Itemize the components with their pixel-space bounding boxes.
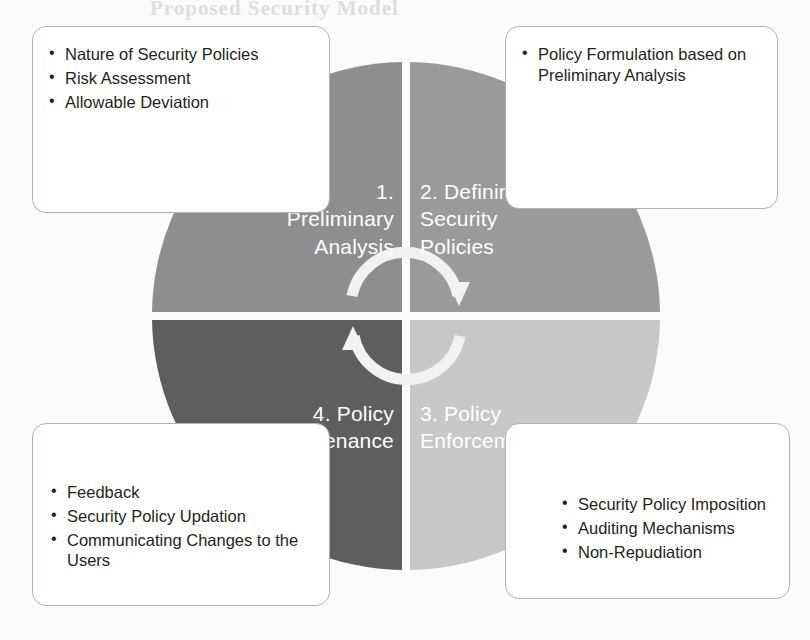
callout-list: Nature of Security PoliciesRisk Assessme…: [49, 44, 315, 112]
callout-list-item: Policy Formulation based on Preliminary …: [522, 44, 765, 86]
diagram-page: Proposed Security Model roposed Security…: [0, 0, 810, 640]
callout-list-item: Auditing Mechanisms: [562, 518, 777, 539]
callout-list: FeedbackSecurity Policy UpdationCommunic…: [51, 482, 317, 571]
callout-defining-security-policies: Policy Formulation based on Preliminary …: [505, 26, 778, 209]
callout-policy-maintenance: FeedbackSecurity Policy UpdationCommunic…: [32, 423, 330, 606]
callout-list-item: Allowable Deviation: [49, 92, 315, 113]
bleed-text-top: Proposed Security Model: [150, 0, 399, 21]
callout-list-item: Security Policy Updation: [51, 506, 317, 527]
callout-list-item: Security Policy Imposition: [562, 494, 777, 515]
callout-list-item: Nature of Security Policies: [49, 44, 315, 65]
callout-preliminary-analysis: Nature of Security PoliciesRisk Assessme…: [32, 26, 330, 213]
callout-list: Security Policy ImpositionAuditing Mecha…: [562, 494, 777, 562]
callout-policy-enforcement: Security Policy ImpositionAuditing Mecha…: [505, 423, 790, 599]
callout-list-item: Non-Repudiation: [562, 542, 777, 563]
callout-list-item: Communicating Changes to the Users: [51, 530, 317, 572]
callout-list: Policy Formulation based on Preliminary …: [522, 44, 765, 86]
circular-arrows-icon: [352, 252, 460, 379]
callout-list-item: Feedback: [51, 482, 317, 503]
callout-list-item: Risk Assessment: [49, 68, 315, 89]
